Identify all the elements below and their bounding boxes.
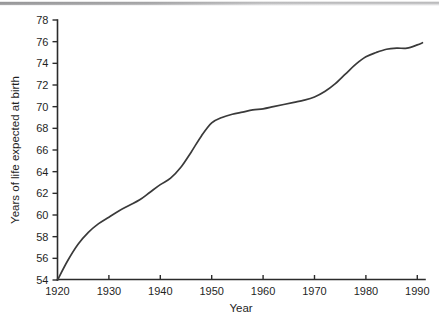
x-tick-label: 1950	[199, 285, 223, 297]
y-tick-label: 68	[36, 122, 48, 134]
x-tick-label: 1940	[148, 285, 172, 297]
y-tick-label: 62	[36, 187, 48, 199]
x-tick-label: 1990	[405, 285, 429, 297]
y-tick-label: 64	[36, 166, 48, 178]
y-axis-tick-labels: 54565860626466687072747678	[36, 14, 48, 286]
y-tick-label: 70	[36, 101, 48, 113]
x-tick-label: 1930	[97, 285, 121, 297]
x-tick-label: 1960	[251, 285, 275, 297]
y-tick-label: 76	[36, 36, 48, 48]
line-chart-svg: 54565860626466687072747678 1920193019401…	[0, 0, 439, 319]
chart-figure: 54565860626466687072747678 1920193019401…	[0, 0, 439, 319]
x-axis-title: Year	[229, 302, 252, 314]
life-expectancy-line	[58, 43, 423, 280]
y-tick-label: 72	[36, 79, 48, 91]
y-tick-label: 78	[36, 14, 48, 26]
x-tick-label: 1970	[302, 285, 326, 297]
x-tick-label: 1980	[354, 285, 378, 297]
x-axis-tick-labels: 19201930194019501960197019801990	[45, 285, 429, 297]
y-tick-label: 56	[36, 252, 48, 264]
y-tick-label: 74	[36, 57, 48, 69]
x-tick-label: 1920	[45, 285, 69, 297]
y-axis-title: Years of life expected at birth	[9, 76, 21, 224]
y-tick-label: 60	[36, 209, 48, 221]
y-tick-label: 66	[36, 144, 48, 156]
y-tick-label: 58	[36, 231, 48, 243]
